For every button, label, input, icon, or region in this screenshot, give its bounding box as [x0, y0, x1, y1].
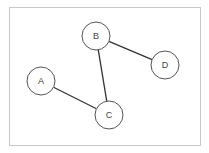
node-b: B — [82, 22, 110, 50]
edges-group — [54, 41, 153, 108]
edge-b-d — [109, 41, 152, 59]
edge-a-c — [54, 87, 97, 108]
node-a: A — [27, 67, 55, 95]
node-c: C — [95, 101, 123, 129]
edge-b-c — [98, 50, 106, 101]
node-d: D — [151, 51, 179, 79]
node-label-a: A — [38, 76, 44, 86]
node-label-c: C — [106, 110, 113, 120]
node-label-d: D — [162, 60, 169, 70]
node-label-b: B — [93, 31, 99, 41]
graph-diagram: A B C D — [0, 0, 209, 153]
